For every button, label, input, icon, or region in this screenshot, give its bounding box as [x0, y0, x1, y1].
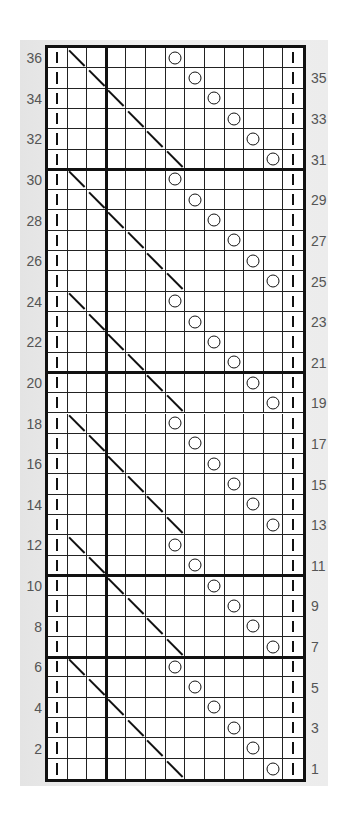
knit-cell [87, 109, 107, 129]
knit-cell [244, 698, 264, 718]
yarn-over-symbol-icon [225, 109, 245, 129]
knit-cell [185, 617, 205, 637]
knit-cell [166, 434, 186, 454]
row-number-label: 11 [311, 558, 335, 574]
knit-cell [185, 718, 205, 738]
knit-cell [205, 474, 225, 494]
knit-cell [264, 109, 284, 129]
purl-symbol-icon [48, 292, 68, 312]
row-number-label: 16 [18, 456, 42, 472]
knit-cell [68, 271, 88, 291]
row-number-label: 2 [18, 741, 42, 757]
knit-cell [146, 271, 166, 291]
yarn-over-symbol-icon [225, 353, 245, 373]
knit-cell [146, 759, 166, 779]
purl-symbol-icon [283, 150, 303, 170]
knit-cell [68, 718, 88, 738]
knit-cell [87, 454, 107, 474]
purl-symbol-icon [48, 617, 68, 637]
knit-cell [126, 170, 146, 190]
row-number-label: 24 [18, 294, 42, 310]
knit-cell [205, 170, 225, 190]
knit-cell [126, 414, 146, 434]
k2tog-symbol-icon [166, 271, 186, 291]
knit-cell [264, 48, 284, 68]
knit-cell [244, 48, 264, 68]
purl-symbol-icon [283, 515, 303, 535]
k2tog-symbol-icon [87, 677, 107, 697]
knit-cell [126, 48, 146, 68]
yarn-over-symbol-icon [225, 231, 245, 251]
knit-cell [205, 353, 225, 373]
knit-cell [146, 312, 166, 332]
knit-cell [146, 210, 166, 230]
knit-cell [107, 68, 127, 88]
knit-cell [107, 556, 127, 576]
row-number-label: 7 [311, 639, 335, 655]
knit-cell [205, 759, 225, 779]
yarn-over-symbol-icon [166, 48, 186, 68]
purl-symbol-icon [48, 373, 68, 393]
row-number-label: 23 [311, 314, 335, 330]
knit-cell [185, 251, 205, 271]
knit-cell [244, 210, 264, 230]
purl-symbol-icon [283, 109, 303, 129]
knit-cell [166, 109, 186, 129]
knit-cell [107, 373, 127, 393]
knit-cell [225, 535, 245, 555]
knit-cell [107, 231, 127, 251]
knit-cell [126, 556, 146, 576]
knit-cell [146, 89, 166, 109]
knit-cell [146, 698, 166, 718]
knit-cell [205, 393, 225, 413]
knit-cell [107, 637, 127, 657]
yarn-over-symbol-icon [264, 759, 284, 779]
knit-cell [225, 68, 245, 88]
knit-cell [107, 596, 127, 616]
knit-cell [185, 353, 205, 373]
knit-cell [107, 312, 127, 332]
knit-cell [68, 89, 88, 109]
knit-cell [68, 129, 88, 149]
purl-symbol-icon [48, 68, 68, 88]
knit-cell [264, 535, 284, 555]
k2tog-symbol-icon [68, 170, 88, 190]
knit-cell [107, 515, 127, 535]
knit-cell [225, 515, 245, 535]
knit-cell [87, 657, 107, 677]
knit-cell [225, 677, 245, 697]
section-divider-line [45, 574, 306, 577]
knit-cell [87, 698, 107, 718]
row-number-label: 25 [311, 274, 335, 290]
purl-symbol-icon [48, 150, 68, 170]
yarn-over-symbol-icon [205, 576, 225, 596]
knit-cell [87, 89, 107, 109]
purl-symbol-icon [283, 271, 303, 291]
knit-cell [166, 495, 186, 515]
purl-symbol-icon [283, 454, 303, 474]
knit-cell [225, 434, 245, 454]
purl-symbol-icon [283, 535, 303, 555]
knit-cell [68, 495, 88, 515]
knit-cell [264, 474, 284, 494]
knit-cell [126, 576, 146, 596]
purl-symbol-icon [48, 251, 68, 271]
repeat-divider-line [105, 45, 108, 782]
row-number-label: 29 [311, 192, 335, 208]
knit-cell [244, 271, 264, 291]
row-number-label: 9 [311, 598, 335, 614]
knit-cell [87, 231, 107, 251]
knit-cell [126, 150, 146, 170]
purl-symbol-icon [283, 637, 303, 657]
knit-cell [68, 190, 88, 210]
knit-cell [205, 596, 225, 616]
k2tog-symbol-icon [146, 129, 166, 149]
yarn-over-symbol-icon [166, 535, 186, 555]
purl-symbol-icon [283, 332, 303, 352]
knit-cell [205, 677, 225, 697]
knit-cell [146, 718, 166, 738]
knit-cell [244, 89, 264, 109]
knit-cell [146, 474, 166, 494]
knit-cell [87, 292, 107, 312]
purl-symbol-icon [48, 312, 68, 332]
